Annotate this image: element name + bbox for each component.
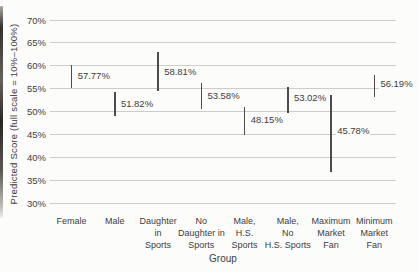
gridline (50, 20, 396, 21)
y-tick-label: 30% (14, 198, 46, 209)
error-bar (330, 95, 332, 172)
value-label: 45.78% (336, 125, 370, 136)
error-bar (201, 83, 203, 109)
gridline (50, 65, 396, 66)
x-axis-title: Group (173, 253, 273, 264)
gridline (50, 180, 396, 181)
y-tick-label: 60% (14, 60, 46, 71)
scan-artifact-strip (0, 6, 3, 218)
predicted-score-chart: Predicted Score (full scale = 10%–100%) … (0, 0, 419, 272)
error-bar (157, 52, 159, 91)
value-label: 51.82% (120, 98, 154, 109)
error-bar (114, 92, 116, 116)
error-bar (244, 107, 246, 134)
value-label: 57.77% (77, 70, 111, 81)
x-tick-label-line: Fan (347, 239, 401, 251)
value-label: 58.81% (163, 66, 197, 77)
y-tick-label: 35% (14, 175, 46, 186)
gridline (50, 111, 396, 112)
error-bar (287, 87, 289, 113)
y-tick-label: 40% (14, 152, 46, 163)
y-tick-label: 55% (14, 83, 46, 94)
y-tick-label: 45% (14, 129, 46, 140)
gridline (50, 157, 396, 158)
x-tick-label-line: Minimum (347, 215, 401, 227)
y-tick-label: 70% (14, 15, 46, 26)
value-label: 48.15% (250, 114, 284, 125)
y-tick-label: 65% (14, 37, 46, 48)
y-tick-label: 50% (14, 106, 46, 117)
error-bar (374, 75, 376, 97)
gridline (50, 42, 396, 43)
x-tick-label: MinimumMarketFan (347, 215, 401, 251)
value-label: 56.19% (379, 78, 413, 89)
error-bar (71, 65, 73, 88)
value-label: 53.58% (206, 90, 240, 101)
x-tick-label-line: Market (347, 227, 401, 239)
value-label: 53.02% (293, 92, 327, 103)
gridline (50, 203, 396, 204)
